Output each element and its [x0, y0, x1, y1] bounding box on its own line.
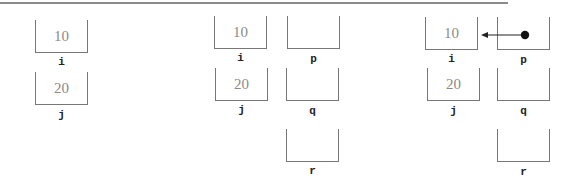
variable-value-i: 10 [54, 28, 69, 45]
variable-box-p [497, 17, 550, 50]
arrowhead-icon [481, 32, 488, 38]
variable-label-j: j [35, 109, 88, 121]
variable-value-i: 10 [233, 24, 248, 41]
variable-label-i: i [35, 56, 88, 68]
variable-box-i: 10 [214, 16, 267, 49]
variable-label-j: j [215, 104, 268, 116]
variable-box-r [286, 129, 339, 162]
variable-label-q: q [286, 105, 339, 117]
variable-label-q: q [497, 105, 550, 117]
top-rule [0, 2, 508, 4]
variable-value-j: 20 [54, 80, 69, 97]
variable-box-r [497, 129, 550, 162]
variable-label-p: p [287, 53, 340, 65]
variable-box-q [286, 68, 339, 101]
variable-value-j: 20 [234, 76, 249, 93]
variable-label-i: i [425, 53, 478, 65]
variable-label-i: i [214, 52, 267, 64]
variable-box-j: 20 [215, 68, 268, 101]
variable-label-r: r [497, 166, 550, 178]
variable-box-j: 20 [427, 68, 480, 101]
variable-label-r: r [286, 165, 339, 177]
variable-box-j: 20 [35, 72, 88, 105]
variable-value-j: 20 [446, 76, 461, 93]
variable-box-i: 10 [425, 17, 478, 50]
variable-value-i: 10 [444, 25, 459, 42]
variable-box-q [497, 68, 550, 101]
variable-label-j: j [427, 105, 480, 117]
variable-box-i: 10 [35, 20, 88, 53]
variable-box-p [287, 16, 340, 49]
variable-label-p: p [497, 54, 550, 66]
